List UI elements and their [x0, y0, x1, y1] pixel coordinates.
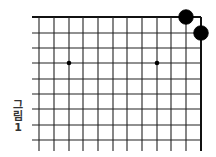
figure-caption: 그 림 1: [11, 100, 25, 133]
caption-char-3: 1: [11, 122, 25, 133]
go-board-diagram: [0, 0, 216, 157]
stones: [179, 10, 209, 41]
black-stone-icon: [179, 10, 194, 25]
board-grid: [32, 17, 201, 151]
star-point-icon: [67, 61, 72, 66]
black-stone-icon: [194, 26, 209, 41]
star-point-icon: [155, 61, 160, 66]
